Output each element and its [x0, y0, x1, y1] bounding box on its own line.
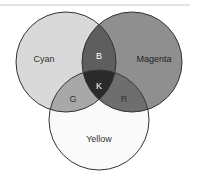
label-g: G: [69, 94, 76, 104]
label-k: K: [96, 81, 102, 91]
label-cyan: Cyan: [33, 54, 54, 64]
venn-diagram: Cyan Magenta Yellow B G R K: [0, 0, 198, 185]
label-magenta: Magenta: [136, 54, 171, 64]
label-yellow: Yellow: [86, 134, 112, 144]
label-r: R: [121, 94, 128, 104]
label-b: B: [96, 51, 102, 61]
